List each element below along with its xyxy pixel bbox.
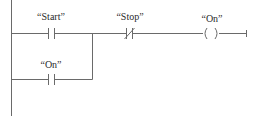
ladder-diagram: “Start” “Stop” “On” “On”	[0, 0, 256, 117]
on-coil-label: “On”	[201, 14, 222, 24]
on-coil-icon	[205, 28, 217, 39]
stop-contact-label: “Stop”	[116, 12, 143, 22]
seal-in-contact-label: “On”	[40, 60, 61, 70]
start-contact-label: “Start”	[37, 12, 65, 22]
start-contact-icon	[49, 28, 55, 39]
seal-in-contact-icon	[49, 74, 55, 85]
